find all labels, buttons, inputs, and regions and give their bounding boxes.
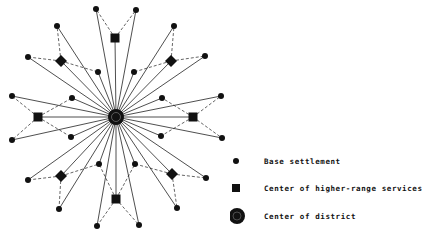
base-settlement-icon [93,6,99,12]
base-settlement-icon [202,53,208,59]
legend-label: Center of district [264,212,356,221]
square-icon [34,113,43,122]
settlement-diagram [0,0,230,233]
base-settlement-icon [56,206,62,212]
base-settlement-icon [133,7,139,13]
base-settlement-icon [174,205,180,211]
base-settlement-icon [230,156,250,166]
base-settlement-icon [25,177,31,183]
base-settlement-icon [136,222,142,228]
square-icon [189,113,198,122]
base-settlement-icon [158,133,164,139]
base-settlement-icon [159,95,165,101]
base-settlement-icon [54,23,60,29]
base-settlement-icon [203,175,209,181]
base-settlement-icon [95,69,101,75]
base-settlement-icon [132,161,138,167]
base-settlement-icon [9,93,15,99]
base-settlement-icon [94,223,100,229]
square-icon [230,183,250,193]
base-settlement-icon [96,161,102,167]
square-icon [112,195,121,204]
base-settlement-icon [25,54,31,60]
base-settlement-icon [219,135,225,141]
legend-label: Center of higher-range services [264,184,423,193]
base-settlement-icon [171,23,177,29]
legend-item-district-center: Center of district [230,206,356,226]
legend-item-base-settlement: Base settlement [230,156,341,166]
district-center-icon [108,109,124,125]
base-settlement-icon [218,93,224,99]
base-settlement-icon [9,137,15,143]
base-settlement-icon [68,134,74,140]
base-settlement-icon [69,95,75,101]
legend-label: Base settlement [264,157,341,166]
district-center-icon [230,206,250,226]
base-settlement-icon [131,69,137,75]
legend-item-higher-range-center: Center of higher-range services [230,183,423,193]
square-icon [111,34,120,43]
